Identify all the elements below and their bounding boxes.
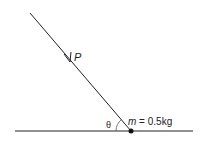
force-diagram: P θ m = 0.5kg	[0, 0, 207, 143]
mass-label: m = 0.5kg	[128, 116, 172, 127]
mass-value: = 0.5kg	[136, 116, 172, 127]
diagram-svg: P θ m = 0.5kg	[0, 0, 207, 143]
mass-symbol: m	[128, 116, 136, 127]
mass-point	[129, 129, 134, 134]
force-label: P	[74, 51, 82, 63]
angle-arc	[116, 120, 122, 132]
angle-label: θ	[106, 120, 111, 130]
force-line	[30, 13, 131, 131]
